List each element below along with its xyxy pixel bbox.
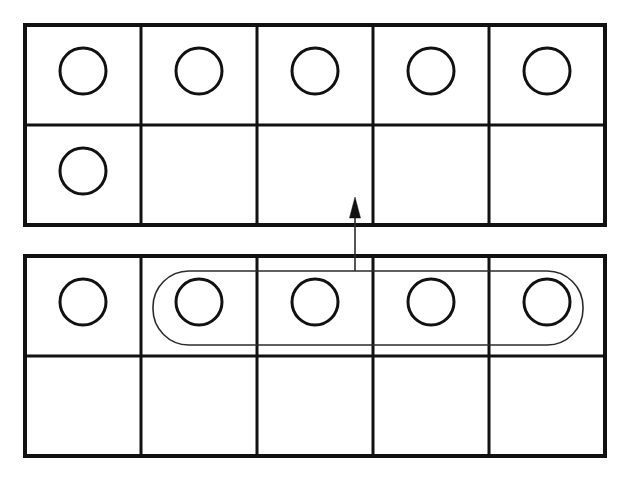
bottom-frame-gridlines (25, 256, 605, 456)
counter-selection-lasso[interactable] (153, 271, 583, 345)
ten-frame-diagram-svg (0, 0, 624, 482)
move-counters-arrow[interactable] (350, 197, 361, 271)
counter-circle-icon[interactable] (60, 48, 106, 94)
counter-circle-icon[interactable] (408, 48, 454, 94)
counter-circle-icon[interactable] (60, 279, 106, 325)
counter-circle-icon[interactable] (524, 279, 570, 325)
bottom-frame-counters[interactable] (60, 279, 570, 325)
top-frame-group[interactable] (25, 25, 605, 225)
counter-circle-icon[interactable] (176, 279, 222, 325)
counter-circle-icon[interactable] (408, 279, 454, 325)
counter-circle-icon[interactable] (292, 279, 338, 325)
top-frame-counters[interactable] (60, 48, 570, 194)
counter-circle-icon[interactable] (176, 48, 222, 94)
bottom-frame-group[interactable] (25, 256, 605, 456)
counter-circle-icon[interactable] (292, 48, 338, 94)
top-frame-gridlines (25, 25, 605, 225)
counter-circle-icon[interactable] (60, 148, 106, 194)
diagram-canvas (0, 0, 624, 482)
counter-circle-icon[interactable] (524, 48, 570, 94)
arrow-head-icon (350, 197, 361, 218)
